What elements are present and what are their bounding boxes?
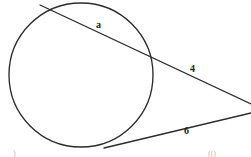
geometry-canvas <box>0 0 251 157</box>
clipped-text-artifact-bottom-left: ) <box>13 150 16 157</box>
secant-external-length-label-4: 4 <box>190 64 195 74</box>
secant-line <box>40 5 251 104</box>
chord-length-label-a: a <box>96 20 101 30</box>
tangent-length-label-6: 6 <box>184 126 189 136</box>
geometry-diagram: a 4 6 ) (() <box>0 0 251 157</box>
clipped-text-artifact-bottom-right: (() <box>208 150 216 157</box>
